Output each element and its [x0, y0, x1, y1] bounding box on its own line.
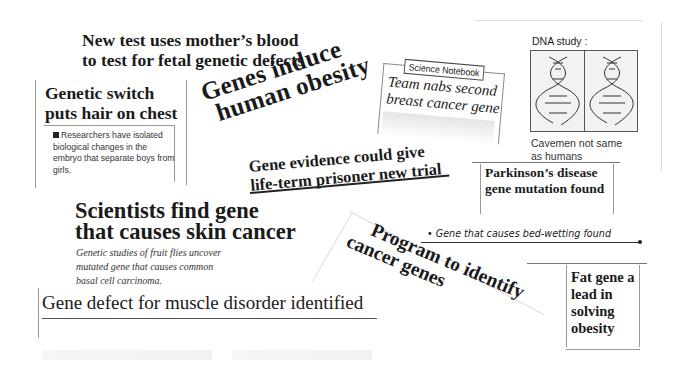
headline-line: Scientists find gene: [75, 200, 296, 221]
dna-study-title: DNA study :: [532, 35, 587, 47]
headline-line: lead in: [571, 286, 635, 303]
headline-muscle-disorder: Gene defect for muscle disorder identifi…: [42, 292, 363, 314]
headline-line: gene mutation found: [485, 181, 604, 197]
rule: [613, 164, 614, 214]
underline-rule: [421, 242, 641, 243]
summary-line: basal cell carcinoma.: [76, 274, 221, 288]
headline-parkinsons: Parkinson’s disease gene mutation found: [485, 165, 604, 197]
summary-text: Researchers have isolated biological cha…: [53, 130, 178, 177]
faded-text: [232, 350, 372, 360]
divider: [186, 80, 187, 185]
headline-line: Genetic switch: [45, 83, 177, 103]
clipping-frame: [661, 22, 662, 172]
rule: [38, 288, 39, 338]
rule: [480, 164, 481, 214]
headline-line: that causes skin cancer: [75, 221, 296, 242]
rule: [566, 349, 640, 350]
clipping-frame: [475, 20, 643, 21]
headline-line: puts hair on chest: [45, 103, 177, 123]
headline-line: Parkinson’s disease: [485, 165, 604, 181]
dna-caption: Cavemen not same as humans: [531, 137, 622, 163]
divider: [35, 80, 36, 185]
rule: [566, 265, 567, 347]
headline-line: Fat gene a: [571, 269, 635, 286]
rule: [472, 162, 620, 163]
clipping-science-notebook: Science Notebook Team nabs second breast…: [377, 57, 505, 145]
rule: [527, 263, 647, 264]
caption-line: Cavemen not same: [531, 137, 622, 150]
faded-text: [42, 350, 212, 360]
rule: [639, 265, 640, 347]
headline-line: New test uses mother’s blood: [82, 30, 304, 50]
square-bullet-icon: [53, 132, 59, 138]
summary-line: mutated gene that causes common: [76, 260, 221, 274]
summary-line: Genetic studies of fruit flies uncover: [76, 246, 221, 260]
headline-line: obesity: [571, 320, 635, 337]
headline-skin-cancer: Scientists find gene that causes skin ca…: [75, 200, 296, 242]
summary-body: Researchers have isolated biological cha…: [53, 130, 174, 175]
skin-cancer-summary: Genetic studies of fruit flies uncover m…: [76, 246, 221, 288]
headline-line: solving: [571, 303, 635, 320]
headline-genetic-switch: Genetic switch puts hair on chest: [45, 83, 177, 123]
underline-rule: [42, 318, 377, 319]
divider: [584, 51, 585, 131]
headline-prisoner-trial: Gene evidence could give life-term priso…: [248, 140, 442, 195]
dot-icon: [638, 240, 642, 244]
headline-bed-wetting: • Gene that causes bed-wetting found: [427, 228, 611, 239]
headline-fat-gene: Fat gene a lead in solving obesity: [571, 269, 635, 337]
